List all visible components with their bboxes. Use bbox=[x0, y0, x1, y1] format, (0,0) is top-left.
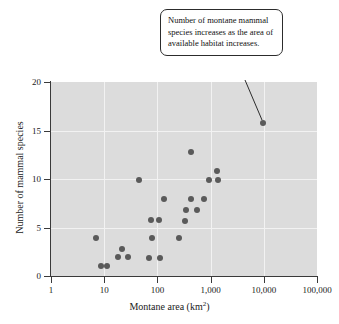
gridline-horizontal bbox=[51, 131, 317, 132]
x-axis-title: Montane area (km2) bbox=[0, 300, 339, 312]
data-point bbox=[188, 196, 194, 202]
x-tick-label: 100,000 bbox=[302, 286, 331, 295]
data-point bbox=[98, 263, 104, 269]
data-point bbox=[149, 235, 155, 241]
data-point bbox=[188, 149, 194, 155]
y-tick-mark bbox=[44, 82, 50, 83]
plot-area bbox=[51, 82, 317, 276]
data-point bbox=[115, 254, 121, 260]
x-tick-mark bbox=[317, 277, 318, 283]
x-tick-label: 10,000 bbox=[251, 286, 276, 295]
gridline-horizontal bbox=[51, 179, 317, 180]
y-tick-mark bbox=[44, 228, 50, 229]
data-point bbox=[156, 217, 162, 223]
data-point bbox=[214, 168, 220, 174]
x-tick-mark bbox=[264, 277, 265, 283]
x-tick-mark bbox=[104, 277, 105, 283]
data-point bbox=[148, 217, 154, 223]
y-tick-label: 5 bbox=[37, 224, 42, 233]
y-tick-mark bbox=[44, 179, 50, 180]
y-tick-mark bbox=[44, 131, 50, 132]
annotation-callout: Number of montane mammal species increas… bbox=[160, 9, 283, 56]
x-axis-title-text: Montane area (km bbox=[129, 301, 202, 312]
x-tick-mark bbox=[211, 277, 212, 283]
y-tick-label: 10 bbox=[32, 175, 41, 184]
x-axis-title-tail: ) bbox=[206, 301, 209, 312]
scatter-plot-figure: 05101520 1101001,00010,000100,000 Montan… bbox=[0, 0, 339, 324]
gridline-horizontal bbox=[51, 228, 317, 229]
y-axis-title: Number of mammal species bbox=[14, 88, 25, 268]
data-point bbox=[157, 255, 163, 261]
y-tick-label: 0 bbox=[37, 272, 42, 281]
y-tick-label: 20 bbox=[32, 78, 41, 87]
x-tick-mark bbox=[157, 277, 158, 283]
x-tick-label: 100 bbox=[151, 286, 165, 295]
data-point bbox=[146, 255, 152, 261]
y-tick-label: 15 bbox=[32, 127, 41, 136]
x-tick-mark bbox=[51, 277, 52, 283]
data-point bbox=[260, 120, 266, 126]
x-tick-label: 1 bbox=[49, 286, 54, 295]
x-tick-label: 1,000 bbox=[200, 286, 220, 295]
x-tick-label: 10 bbox=[100, 286, 109, 295]
y-tick-mark bbox=[44, 276, 50, 277]
x-axis-line bbox=[51, 276, 318, 277]
data-point bbox=[125, 254, 131, 260]
data-point bbox=[182, 218, 188, 224]
y-axis-line bbox=[50, 81, 51, 277]
